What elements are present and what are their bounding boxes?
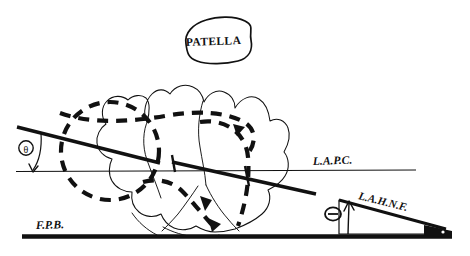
right-angle-vertical bbox=[348, 203, 349, 234]
left-angle-symbol: θ bbox=[24, 144, 29, 155]
lahnf-tip-dot bbox=[441, 230, 444, 233]
patella-label: PATELLA bbox=[186, 34, 242, 48]
fpb-label: F.P.B. bbox=[35, 218, 64, 231]
diagram-svg: PATELLA bbox=[0, 0, 470, 256]
figure-canvas: PATELLA bbox=[0, 0, 470, 256]
lapc-label: L.A.P.C. bbox=[312, 154, 353, 167]
